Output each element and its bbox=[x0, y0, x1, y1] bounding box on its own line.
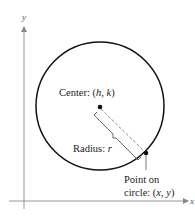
point-label-line2: circle: (x, y) bbox=[124, 187, 175, 199]
radius-label: Radius: r bbox=[73, 143, 113, 154]
point-label-line1: Point on bbox=[124, 174, 160, 185]
center-label: Center: (h, k) bbox=[59, 87, 115, 99]
y-axis-label: y bbox=[21, 12, 26, 22]
x-axis-label: x bbox=[189, 196, 194, 206]
circle-point bbox=[144, 151, 149, 156]
circle-diagram: x y Center: (h, k) Radius: r Point on ci… bbox=[0, 0, 195, 219]
center-point bbox=[98, 105, 103, 110]
